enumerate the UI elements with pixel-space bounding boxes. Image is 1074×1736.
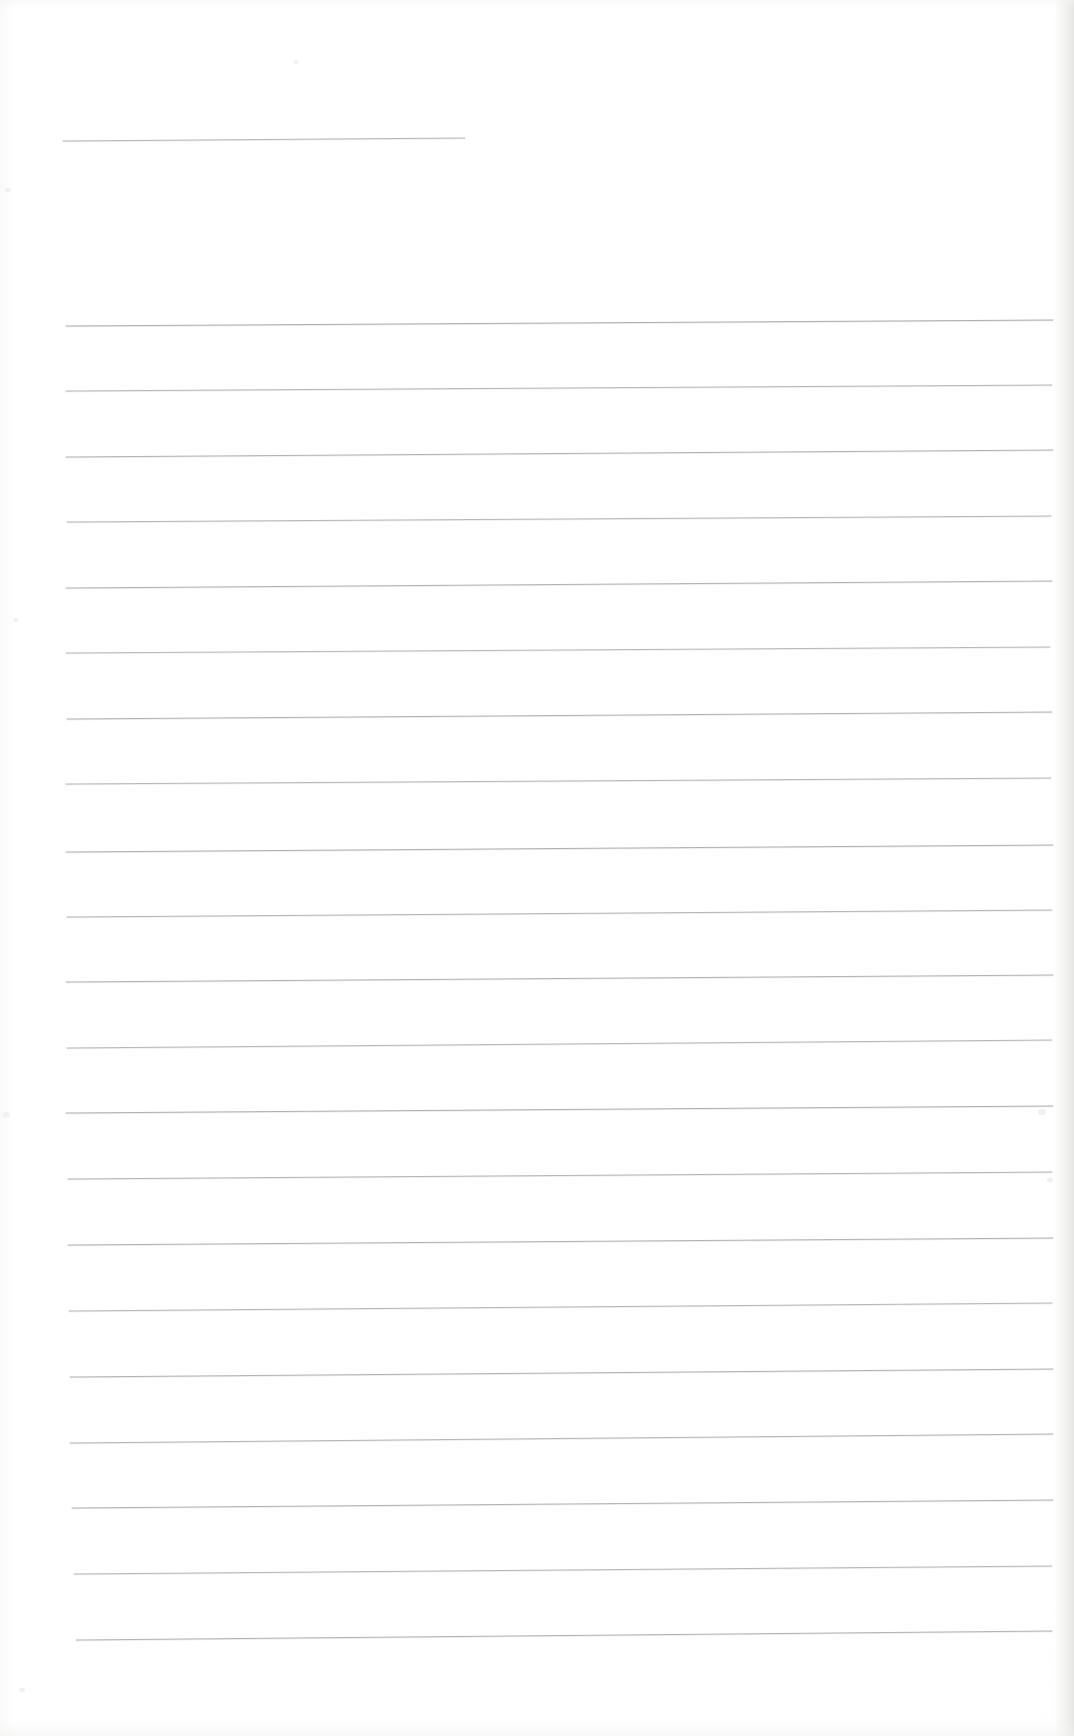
ruled-line-bleed (66, 648, 1050, 654)
scan-speck-group (3, 60, 1054, 1693)
ruled-lines-svg (0, 0, 1074, 1736)
ruled-line-bleed (69, 1304, 1052, 1312)
ruled-line-bleed (67, 713, 1052, 720)
scan-speck (19, 1688, 25, 1693)
ruled-line-bleed (66, 1107, 1053, 1114)
ruled-line (67, 516, 1051, 522)
ruled-line-bleed (67, 517, 1051, 523)
ruled-line (66, 320, 1053, 326)
ruled-line (66, 385, 1052, 391)
ruled-line (68, 1172, 1052, 1179)
ruled-line-bleed (66, 386, 1052, 392)
ruled-line-bleed (66, 976, 1053, 983)
ruled-line-bleed (70, 1435, 1053, 1444)
scan-speck (14, 618, 19, 622)
ruled-line-group (63, 138, 1053, 1641)
ruled-line-bleed (66, 451, 1053, 458)
ruled-line-bleed (68, 1239, 1053, 1246)
scan-edge-shadow-right (1054, 0, 1074, 1736)
scan-edge-shadow-bottom (0, 1720, 1074, 1736)
scanned-page (0, 0, 1074, 1736)
ruled-lines-layer (0, 0, 1074, 1736)
ruled-line (67, 1040, 1052, 1048)
ruled-line-bleed (66, 582, 1052, 589)
ruled-line (67, 712, 1052, 719)
ruled-line-bleed (68, 1173, 1052, 1180)
ruled-line-bleed (76, 1632, 1052, 1641)
ruled-line (67, 910, 1052, 917)
ruled-line (68, 1238, 1053, 1245)
ruled-line-bleed (67, 1041, 1052, 1049)
ruled-line (66, 1106, 1053, 1113)
scan-speck (1047, 1178, 1053, 1183)
ruled-line-bleed (66, 846, 1053, 853)
ruled-line (74, 1566, 1052, 1574)
ruled-line (66, 581, 1052, 588)
ruled-line (66, 450, 1053, 457)
ruled-line-bleed (70, 1370, 1053, 1378)
ruled-line (76, 1631, 1052, 1640)
ruled-line (66, 647, 1050, 653)
ruled-line-bleed (74, 1567, 1052, 1575)
scan-speck (294, 60, 299, 64)
ruled-line-bleed (66, 779, 1051, 785)
ruled-line-bleed (67, 911, 1052, 918)
scan-edge-shadow-left (0, 0, 14, 1736)
ruled-line (66, 975, 1053, 982)
ruled-line-bleed (66, 321, 1053, 327)
ruled-line (70, 1434, 1053, 1443)
ruled-line (70, 1369, 1053, 1377)
ruled-line (72, 1500, 1053, 1508)
ruled-line-bleed (72, 1501, 1053, 1509)
ruled-line (69, 1303, 1052, 1311)
scan-speck (1038, 1109, 1046, 1116)
ruled-line (66, 845, 1053, 852)
scan-edge-shadow-top (0, 0, 1074, 10)
ruled-line (66, 778, 1051, 784)
